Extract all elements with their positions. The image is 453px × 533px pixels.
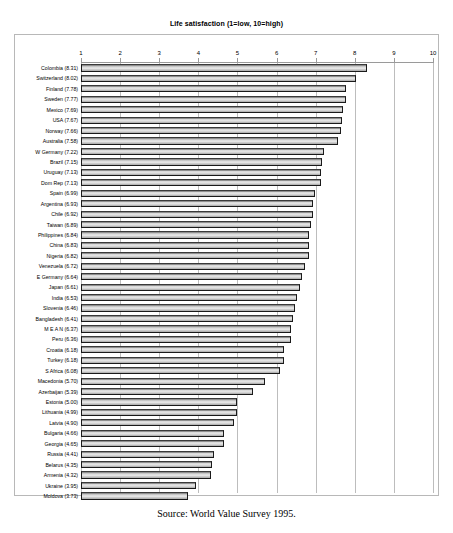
category-label: Japan (6.61) [14,282,80,292]
bar [81,252,309,259]
category-label: Croatia (6.18) [14,345,80,355]
bar-row [81,115,433,125]
bar [81,231,309,238]
bar [81,315,293,322]
bar-row [81,334,433,344]
bar-row [81,282,433,292]
bar-row [81,188,433,198]
category-label: Lithuania (4.99) [14,407,80,417]
bar [81,325,291,332]
bar-row [81,251,433,261]
bar [81,117,342,124]
bar-rows [81,63,433,501]
bar [81,263,305,270]
bar [81,190,315,197]
category-label: China (6.83) [14,240,80,250]
bar-row [81,126,433,136]
x-axis-tick-label: 1 [79,50,82,56]
bar-row [81,491,433,501]
bar [81,200,313,207]
bar-row [81,324,433,334]
bar [81,137,338,144]
bar-row [81,418,433,428]
bar-row [81,105,433,115]
bar-row [81,428,433,438]
bar-row [81,167,433,177]
bar [81,169,321,176]
bar [81,430,224,437]
category-label: Taiwan (6.89) [14,220,80,230]
category-label: Spain (6.99) [14,188,80,198]
category-label: S Africa (6.08) [14,366,80,376]
x-axis-tick-label: 4 [197,50,200,56]
bar-row [81,314,433,324]
x-axis-tick-label: 9 [392,50,395,56]
bar-row [81,387,433,397]
category-label: Belarus (4.35) [14,460,80,470]
bar-row [81,439,433,449]
bar-row [81,240,433,250]
bar-row [81,272,433,282]
bar [81,440,224,447]
bar [81,357,284,364]
category-label: Finland (7.78) [14,84,80,94]
category-label: Estonia (5.00) [14,397,80,407]
bar-row [81,209,433,219]
x-axis-tick-label: 3 [158,50,161,56]
category-label: E Germany (6.64) [14,272,80,282]
category-label: Philippines (6.84) [14,230,80,240]
category-label: Nigeria (6.82) [14,251,80,261]
plot-area [81,63,433,498]
bar-row [81,73,433,83]
bar [81,64,367,71]
bar-row [81,345,433,355]
page-title: Life satisfaction (1=low, 10=high) [0,20,453,27]
bar [81,85,346,92]
bar-row [81,460,433,470]
bar-row [81,481,433,491]
bar [81,75,356,82]
bar [81,284,300,291]
x-axis-tick-mark [433,58,434,63]
bar-row [81,147,433,157]
bar [81,242,309,249]
bar-row [81,355,433,365]
category-axis-labels: Colombia (8.31)Switzerland (8.02)Finland… [14,63,80,498]
category-label: Venezuela (6.72) [14,261,80,271]
bar-row [81,94,433,104]
bar-row [81,303,433,313]
bar [81,398,237,405]
source-caption: Source: World Value Survey 1995. [0,508,453,519]
category-label: Peru (6.36) [14,334,80,344]
bar [81,409,237,416]
bar [81,273,302,280]
bar [81,346,284,353]
bar [81,336,291,343]
x-axis-tick-label: 2 [118,50,121,56]
category-label: Australia (7.58) [14,136,80,146]
bar-row [81,376,433,386]
category-label: Brazil (7.15) [14,157,80,167]
category-label: W Germany (7.22) [14,147,80,157]
bar [81,148,324,155]
category-label: Bangladesh (6.41) [14,314,80,324]
bar-row [81,293,433,303]
category-label: Latvia (4.90) [14,418,80,428]
bar-row [81,84,433,94]
bar [81,471,211,478]
category-label: India (6.53) [14,293,80,303]
bar [81,158,322,165]
x-axis-tick-label: 8 [353,50,356,56]
bar-row [81,157,433,167]
category-label: Bulgaria (4.66) [14,428,80,438]
category-label: Azerbaijan (5.39) [14,387,80,397]
category-label: Turkey (6.18) [14,355,80,365]
bar-row [81,366,433,376]
category-label: USA (7.67) [14,115,80,125]
bar [81,221,311,228]
bar [81,482,196,489]
category-label: M E A N (6.37) [14,324,80,334]
bar [81,451,214,458]
bar-row [81,261,433,271]
bar [81,378,265,385]
